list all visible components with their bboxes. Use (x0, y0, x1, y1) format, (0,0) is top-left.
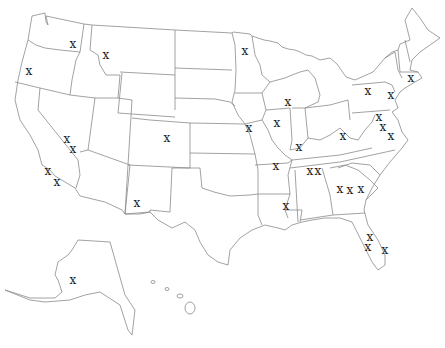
hawaii-island-kauai (151, 281, 155, 284)
border-mn-wi (252, 36, 270, 93)
border-vt-nh (398, 50, 400, 72)
map-marker-x: x (26, 65, 33, 77)
map-marker-x: x (285, 96, 292, 108)
border-ia (232, 93, 266, 124)
border-co (128, 118, 190, 168)
map-marker-x: x (134, 197, 141, 209)
border-id-ut (95, 98, 132, 100)
map-marker-x: x (358, 183, 365, 195)
map-marker-x: x (337, 183, 344, 195)
map-marker-x: x (388, 130, 395, 142)
map-marker-x: x (296, 141, 303, 153)
map-marker-x: x (70, 143, 77, 155)
border-nh-me (405, 40, 410, 62)
hawaii-island-big (185, 302, 195, 314)
map-marker-x: x (242, 45, 249, 57)
border-ms-al (295, 170, 298, 222)
border-wy (118, 73, 175, 117)
border-or-id (70, 24, 84, 95)
border-ne-ks (190, 123, 245, 124)
border-ky-tn (292, 148, 372, 160)
border-nm (125, 165, 172, 214)
hawaii-island-maui (177, 294, 183, 298)
border-ut-co (128, 100, 132, 165)
border-nd-sd (175, 68, 232, 70)
map-marker-x: x (283, 200, 290, 212)
map-marker-x: x (164, 132, 171, 144)
map-marker-x: x (273, 160, 280, 172)
map-marker-x: x (365, 241, 372, 253)
map-marker-x: x (382, 244, 389, 256)
border-oh-pa (305, 100, 350, 120)
border-pa-md (352, 110, 390, 113)
border-al-ga (322, 168, 333, 215)
map-marker-x: x (380, 121, 387, 133)
map-marker-x: x (274, 117, 281, 129)
border-mi-wi (270, 72, 300, 82)
map-marker-x: x (315, 165, 322, 177)
border-michigan-lower (300, 70, 320, 108)
map-marker-x: x (408, 72, 415, 84)
alaska-outline (5, 240, 135, 335)
border-in-oh (292, 108, 308, 138)
map-marker-x: x (347, 184, 354, 196)
us-outline (15, 8, 440, 270)
map-marker-x: x (45, 165, 52, 177)
map-marker-x: x (365, 85, 372, 97)
border-ks-ok (190, 153, 255, 154)
map-marker-x: x (246, 122, 253, 134)
border-az (88, 150, 130, 214)
border-ok (172, 154, 258, 196)
border-sd-ne (175, 98, 235, 106)
map-marker-x: x (340, 130, 347, 142)
border-or-ca (15, 82, 70, 95)
hawaii-island-oahu (165, 288, 169, 291)
map-marker-x: x (388, 89, 395, 101)
border-il-in (290, 108, 292, 150)
us-map (0, 0, 445, 348)
border-dakotas-mn (232, 33, 236, 102)
map-marker-x: x (103, 49, 110, 61)
map-marker-x: x (70, 38, 77, 50)
border-mt-wy (120, 72, 175, 75)
map-marker-x: x (54, 176, 61, 188)
border-tx-la (258, 194, 262, 225)
map-marker-x: x (70, 274, 77, 286)
map-marker-x: x (307, 165, 314, 177)
